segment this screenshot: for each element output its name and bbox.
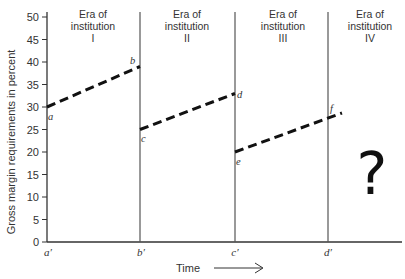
svg-text:III: III: [279, 32, 288, 44]
svg-text:Era of: Era of: [79, 8, 107, 20]
era-label-2: Era of institution II: [165, 8, 210, 44]
svg-text:institution: institution: [261, 20, 306, 32]
y-tick-label: 10: [27, 191, 39, 203]
point-label-f: f: [330, 103, 335, 114]
y-tick-label: 15: [27, 169, 39, 181]
svg-text:Era of: Era of: [269, 8, 297, 20]
y-tick-label: 30: [27, 101, 39, 113]
x-tick-label: a′: [44, 246, 53, 258]
y-tick-labels: 0 5 10 15 20 25 30 35 40 45 50: [27, 11, 39, 248]
point-label-c: c: [141, 133, 146, 144]
y-tick-label: 40: [27, 56, 39, 68]
series-era-2: [140, 94, 235, 130]
era-label-1: Era of institution I: [71, 8, 116, 44]
y-tick-label: 50: [27, 11, 39, 23]
svg-text:institution: institution: [165, 20, 210, 32]
y-ticks: [42, 17, 47, 242]
series-lines: [47, 67, 342, 153]
time-arrow-icon: [214, 263, 263, 273]
y-tick-label: 20: [27, 146, 39, 158]
y-tick-label: 35: [27, 79, 39, 91]
era-label-4: Era of institution IV: [348, 8, 393, 44]
x-tick-label: d′: [324, 246, 333, 258]
svg-text:Era of: Era of: [173, 8, 201, 20]
svg-text:institution: institution: [348, 20, 393, 32]
y-tick-label: 0: [33, 236, 39, 248]
point-label-e: e: [236, 156, 241, 167]
y-tick-label: 45: [27, 34, 39, 46]
margin-requirements-chart: 0 5 10 15 20 25 30 35 40 45 50 Gross mar…: [0, 0, 405, 279]
point-labels: a b c d e f: [48, 55, 335, 167]
x-axis-title: Time: [176, 262, 200, 274]
series-era-1: [47, 67, 140, 108]
question-mark-annotation: ?: [357, 140, 388, 208]
point-label-d: d: [237, 89, 243, 100]
series-era-3: [235, 113, 342, 152]
era-labels: Era of institution I Era of institution …: [71, 8, 393, 44]
x-tick-labels: a′ b′ c′ d′: [44, 246, 333, 258]
x-tick-label: b′: [137, 246, 146, 258]
era-label-3: Era of institution III: [261, 8, 306, 44]
svg-text:institution: institution: [71, 20, 116, 32]
point-label-b: b: [130, 55, 135, 66]
y-axis-title: Gross margin requirements in percent: [5, 50, 17, 235]
svg-text:Era of: Era of: [356, 8, 384, 20]
y-tick-label: 25: [27, 124, 39, 136]
point-label-a: a: [48, 111, 53, 122]
era-dividers: [140, 12, 328, 242]
svg-text:IV: IV: [365, 32, 375, 44]
svg-text:II: II: [184, 32, 190, 44]
x-tick-label: c′: [231, 246, 239, 258]
svg-text:I: I: [92, 32, 95, 44]
y-tick-label: 5: [33, 214, 39, 226]
